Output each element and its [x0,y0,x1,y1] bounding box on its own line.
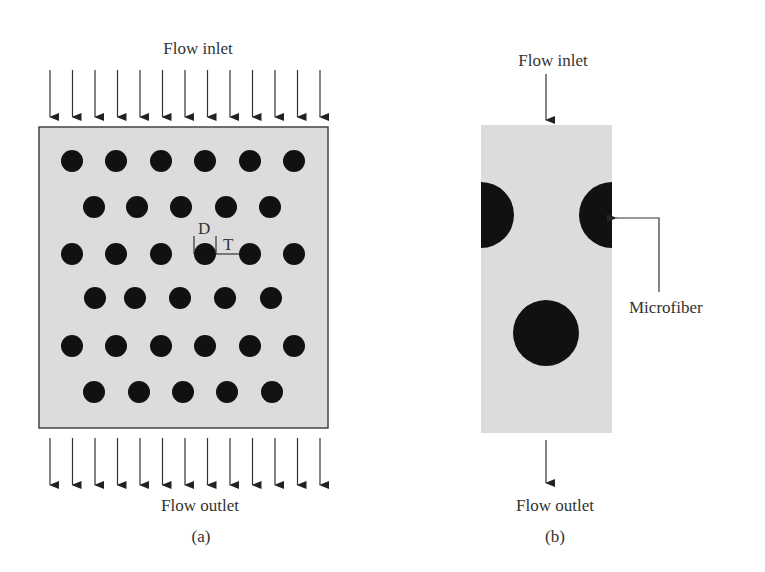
figure-canvas [0,0,765,572]
panel-a-staggered-array [39,70,328,485]
microfiber [283,150,305,172]
microfiber [150,243,172,265]
microfiber [150,335,172,357]
microfiber [105,243,127,265]
panel-b-unit-cell [448,74,659,483]
dimension-t-label: T [223,236,233,253]
microfiber [105,150,127,172]
flow-domain-b [481,125,612,433]
microfiber [126,196,148,218]
microfiber [172,381,194,403]
microfiber [61,335,83,357]
caption-a: (a) [192,528,211,545]
microfiber [61,243,83,265]
microfiber [239,335,261,357]
microfiber [448,182,514,248]
microfiber [259,196,281,218]
microfiber [239,243,261,265]
microfiber [194,243,216,265]
microfiber [170,196,192,218]
microfiber [513,300,579,366]
dimension-d-label: D [198,220,210,237]
microfiber [283,243,305,265]
microfiber [215,196,237,218]
microfiber [283,335,305,357]
flow-outlet-label-b: Flow outlet [516,497,594,514]
outlet-arrows [50,438,320,485]
microfiber [579,182,645,248]
microfiber [84,287,106,309]
microfiber [194,335,216,357]
microfiber [61,150,83,172]
microfiber [194,150,216,172]
flow-outlet-label-a: Flow outlet [161,497,239,514]
microfiber-callout-leader [616,218,659,292]
microfiber [124,287,146,309]
microfiber [169,287,191,309]
microfiber [239,150,261,172]
inlet-arrows [50,70,320,117]
microfiber [214,287,236,309]
microfiber [105,335,127,357]
microfiber-label: Microfiber [629,299,703,316]
microfiber [83,381,105,403]
microfiber [216,381,238,403]
microfiber [83,196,105,218]
microfiber [260,287,282,309]
microfiber [128,381,150,403]
microfiber [261,381,283,403]
caption-b: (b) [545,528,565,545]
flow-inlet-label-b: Flow inlet [518,52,587,69]
microfiber [150,150,172,172]
flow-inlet-label-a: Flow inlet [163,40,232,57]
